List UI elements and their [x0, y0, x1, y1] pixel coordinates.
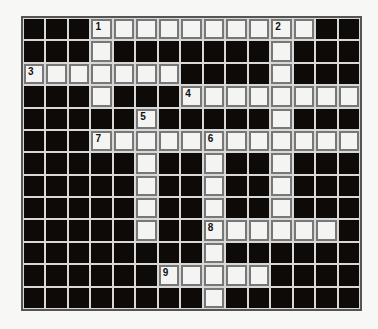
- clue-number: 9: [163, 267, 169, 279]
- answer-cell[interactable]: [204, 86, 224, 106]
- block-cell: [91, 243, 111, 263]
- answer-cell[interactable]: [339, 131, 359, 151]
- answer-cell[interactable]: [69, 64, 89, 84]
- answer-cell[interactable]: [271, 64, 291, 84]
- block-cell: [271, 243, 291, 263]
- block-cell: [24, 288, 44, 308]
- block-cell: [24, 109, 44, 129]
- answer-cell[interactable]: [114, 19, 134, 39]
- answer-cell[interactable]: [271, 176, 291, 196]
- answer-cell[interactable]: 6: [204, 131, 224, 151]
- answer-cell[interactable]: [226, 19, 246, 39]
- answer-cell[interactable]: [204, 265, 224, 285]
- answer-cell[interactable]: [114, 64, 134, 84]
- answer-cell[interactable]: [159, 19, 179, 39]
- answer-cell[interactable]: [271, 153, 291, 173]
- block-cell: [114, 265, 134, 285]
- block-cell: [69, 41, 89, 61]
- block-cell: [69, 220, 89, 240]
- answer-cell[interactable]: [249, 265, 269, 285]
- block-cell: [294, 243, 314, 263]
- answer-cell[interactable]: [204, 19, 224, 39]
- answer-cell[interactable]: [249, 131, 269, 151]
- answer-cell[interactable]: [271, 131, 291, 151]
- block-cell: [136, 41, 156, 61]
- answer-cell[interactable]: [294, 19, 314, 39]
- block-cell: [294, 41, 314, 61]
- block-cell: [339, 176, 359, 196]
- answer-cell[interactable]: [294, 220, 314, 240]
- answer-cell[interactable]: [271, 109, 291, 129]
- answer-cell[interactable]: [271, 220, 291, 240]
- block-cell: [226, 153, 246, 173]
- block-cell: [294, 109, 314, 129]
- answer-cell[interactable]: [249, 19, 269, 39]
- answer-cell[interactable]: [136, 131, 156, 151]
- answer-cell[interactable]: [46, 64, 66, 84]
- answer-cell[interactable]: [316, 220, 336, 240]
- block-cell: [339, 220, 359, 240]
- answer-cell[interactable]: 7: [91, 131, 111, 151]
- answer-cell[interactable]: [226, 131, 246, 151]
- block-cell: [204, 109, 224, 129]
- block-cell: [294, 265, 314, 285]
- answer-cell[interactable]: [204, 153, 224, 173]
- block-cell: [159, 220, 179, 240]
- block-cell: [24, 153, 44, 173]
- answer-cell[interactable]: [294, 131, 314, 151]
- block-cell: [24, 243, 44, 263]
- answer-cell[interactable]: [181, 265, 201, 285]
- answer-cell[interactable]: [159, 131, 179, 151]
- answer-cell[interactable]: [204, 176, 224, 196]
- answer-cell[interactable]: [271, 198, 291, 218]
- answer-cell[interactable]: [226, 86, 246, 106]
- answer-cell[interactable]: [294, 86, 314, 106]
- answer-cell[interactable]: [136, 176, 156, 196]
- answer-cell[interactable]: [249, 220, 269, 240]
- block-cell: [294, 198, 314, 218]
- answer-cell[interactable]: [204, 198, 224, 218]
- answer-cell[interactable]: [136, 153, 156, 173]
- block-cell: [69, 198, 89, 218]
- block-cell: [114, 109, 134, 129]
- answer-cell[interactable]: [316, 131, 336, 151]
- answer-cell[interactable]: 1: [91, 19, 111, 39]
- answer-cell[interactable]: [136, 198, 156, 218]
- answer-cell[interactable]: 9: [159, 265, 179, 285]
- answer-cell[interactable]: [91, 41, 111, 61]
- answer-cell[interactable]: [204, 243, 224, 263]
- answer-cell[interactable]: [204, 288, 224, 308]
- answer-cell[interactable]: [226, 220, 246, 240]
- block-cell: [316, 288, 336, 308]
- answer-cell[interactable]: [136, 64, 156, 84]
- answer-cell[interactable]: 8: [204, 220, 224, 240]
- block-cell: [316, 153, 336, 173]
- answer-cell[interactable]: [91, 64, 111, 84]
- answer-cell[interactable]: 3: [24, 64, 44, 84]
- block-cell: [46, 153, 66, 173]
- answer-cell[interactable]: [181, 19, 201, 39]
- clue-number: 7: [95, 133, 101, 145]
- answer-cell[interactable]: 4: [181, 86, 201, 106]
- answer-cell[interactable]: [271, 86, 291, 106]
- answer-cell[interactable]: [316, 86, 336, 106]
- answer-cell[interactable]: [136, 220, 156, 240]
- answer-cell[interactable]: [249, 86, 269, 106]
- block-cell: [159, 109, 179, 129]
- answer-cell[interactable]: 2: [271, 19, 291, 39]
- answer-cell[interactable]: [181, 131, 201, 151]
- answer-cell[interactable]: 5: [136, 109, 156, 129]
- answer-cell[interactable]: [271, 41, 291, 61]
- answer-cell[interactable]: [226, 265, 246, 285]
- block-cell: [249, 153, 269, 173]
- block-cell: [91, 220, 111, 240]
- answer-cell[interactable]: [91, 86, 111, 106]
- answer-cell[interactable]: [159, 64, 179, 84]
- answer-cell[interactable]: [136, 19, 156, 39]
- block-cell: [339, 153, 359, 173]
- answer-cell[interactable]: [114, 131, 134, 151]
- block-cell: [181, 220, 201, 240]
- block-cell: [339, 109, 359, 129]
- block-cell: [339, 288, 359, 308]
- answer-cell[interactable]: [339, 86, 359, 106]
